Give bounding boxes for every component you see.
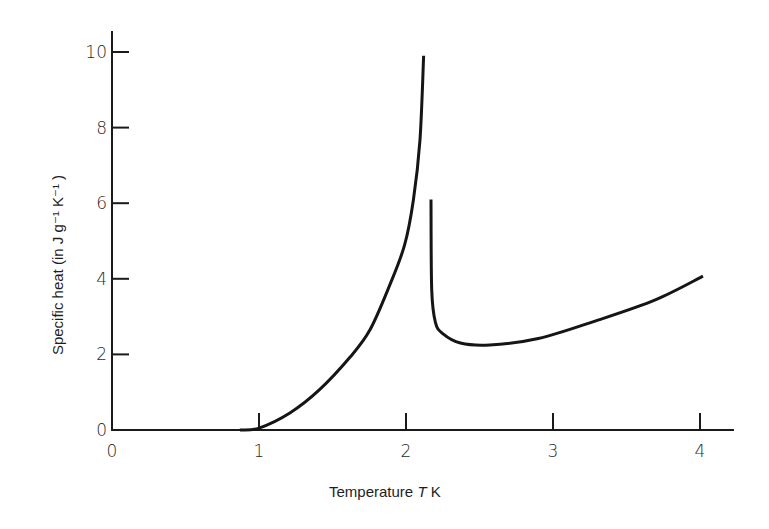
x-tick-label: 4 [695,441,706,461]
y-tick-label: 4 [96,269,107,289]
x-tick-label: 1 [254,441,265,461]
y-axis-label: Specific heat (in J g⁻¹ K⁻¹ ) [49,175,66,355]
y-tick-label: 2 [96,344,107,364]
y-tick-label: 0 [96,420,107,440]
y-tick-label: 8 [96,118,107,138]
x-axis-label: Temperature T K [329,483,441,500]
y-tick-label: 6 [96,193,107,213]
y-ticks: 0246810 [85,42,129,440]
curve-above-lambda [431,199,703,345]
y-tick-label: 10 [85,42,107,62]
x-tick-label: 2 [401,441,412,461]
x-tick-label: 0 [107,441,118,461]
curve-below-lambda [240,56,424,430]
specific-heat-chart: 0246810 01234 Temperature T K Specific h… [0,0,769,529]
data-series [240,56,703,430]
x-ticks: 01234 [107,413,706,461]
x-tick-label: 3 [548,441,559,461]
